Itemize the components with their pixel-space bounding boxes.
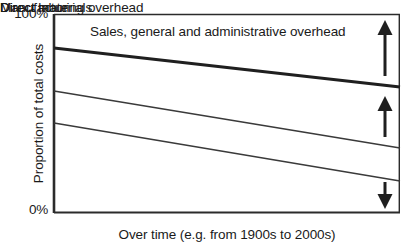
band-divider-manufacturing-materials (54, 91, 400, 148)
plot-frame (54, 14, 400, 213)
cost-structure-chart: Proportion of total costs 100% 0% (0, 0, 411, 251)
arrow-manufacturing-up-icon (378, 96, 393, 137)
x-axis-caption: Over time (e.g. from 1900s to 2000s) (53, 227, 401, 242)
arrow-sga-up-icon (378, 20, 393, 76)
band-label-direct-labor: Direct labor (0, 0, 68, 15)
arrow-direct-labor-down-icon (378, 182, 393, 209)
band-divider-materials-labor (54, 123, 400, 181)
band-divider-sga-manufacturing (54, 48, 400, 87)
band-label-sga: Sales, general and administrative overhe… (90, 24, 345, 39)
